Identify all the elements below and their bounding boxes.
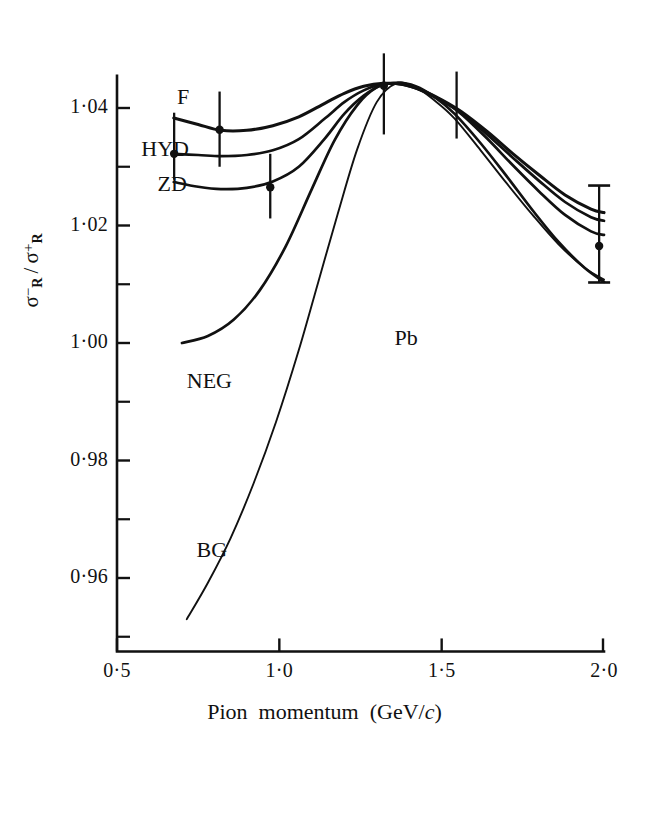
annotation-pb: Pb — [395, 325, 418, 351]
y-axis-title: σ−R / σ+R — [19, 190, 46, 350]
curve-zd — [174, 83, 604, 235]
annotation-zd: ZD — [158, 171, 187, 197]
annotation-hyd: HYD — [141, 136, 189, 162]
figure-root: 0·960·981·001·021·040·51·01·52·0 PbFHYDZ… — [0, 0, 649, 828]
y-axis-title-text: σ−R / σ+R — [19, 233, 43, 307]
y-tick-label: 1·04 — [38, 95, 108, 118]
x-tick-label: 1·5 — [412, 659, 472, 682]
x-tick-label: 0·5 — [87, 659, 147, 682]
data-point-with-errorbar — [588, 186, 610, 283]
annotation-f: F — [177, 84, 189, 110]
y-tick-label: 1·00 — [38, 330, 108, 353]
axes-group — [117, 76, 604, 652]
y-tick-label: 0·98 — [38, 448, 108, 471]
annotation-bg: BG — [197, 537, 228, 563]
x-axis-title: Pion momentum (GeV/c) — [0, 699, 649, 725]
x-tick-label: 1·0 — [249, 659, 309, 682]
curve-neg — [182, 83, 604, 343]
x-tick-label: 2·0 — [574, 659, 634, 682]
y-tick-label: 0·96 — [38, 565, 108, 588]
annotation-neg: NEG — [187, 368, 232, 394]
curve-hyd — [174, 83, 604, 220]
data-point-with-errorbar — [266, 154, 274, 219]
curves-group — [174, 83, 604, 620]
y-tick-label: 1·02 — [38, 213, 108, 236]
data-point-with-errorbar — [380, 53, 388, 134]
